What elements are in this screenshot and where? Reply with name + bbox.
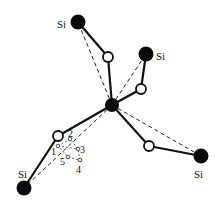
central-atom [105, 98, 119, 112]
oxygen-atom [144, 141, 154, 151]
oxygen-atom [53, 131, 63, 141]
site-point [78, 158, 82, 162]
diagram-root: 12345SiSiSiSi [0, 0, 222, 211]
silicon-atom [139, 47, 154, 62]
dashed-bond-line [112, 54, 146, 105]
silicon-label: Si [156, 50, 165, 62]
silicon-atom [17, 181, 32, 196]
solid-bond-line [112, 105, 149, 146]
site-line [58, 146, 78, 149]
dashed-bond-line [24, 105, 112, 188]
site-point [56, 144, 60, 148]
silicon-atom [71, 15, 86, 30]
site-label: 1 [51, 146, 56, 157]
oxygen-atom [103, 52, 113, 62]
dashed-bond-line [78, 22, 112, 105]
site-label: 4 [76, 164, 81, 175]
oxygen-atom [136, 84, 146, 94]
solid-bond-line [58, 105, 112, 136]
silicon-label: Si [57, 18, 66, 30]
solid-bond-line [24, 136, 58, 188]
site-label: 2 [68, 128, 73, 139]
silicate-tetrahedral-diagram: 12345SiSiSiSi [0, 0, 222, 211]
site-label: 5 [60, 156, 65, 167]
site-label: 3 [80, 144, 85, 155]
silicon-label: Si [18, 168, 27, 180]
site-point [66, 155, 70, 159]
silicon-atom [194, 149, 209, 164]
silicon-label: Si [194, 168, 203, 180]
